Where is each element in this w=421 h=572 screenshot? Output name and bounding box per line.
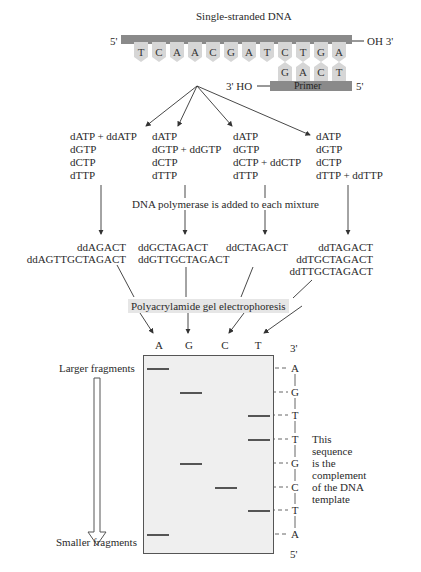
template-5prime-label: 5' [110, 35, 117, 47]
mixture-line: dTTP + ddTTP [316, 169, 383, 182]
sequence-letter: C [290, 481, 300, 493]
gel-band [248, 510, 270, 512]
sequence-letter: A [290, 362, 300, 374]
sequence-letter: T [290, 504, 300, 516]
fragment-line: ddGTTGCTAGACT [138, 253, 229, 265]
polymerase-step-label: DNA polymerase is added to each mixture [130, 198, 321, 210]
template-3prime-label: OH 3' [367, 35, 393, 47]
mixture-line: dGTP [316, 143, 383, 156]
fragment-line: ddAGACT [27, 241, 126, 253]
mixture-line: dGTP + ddGTP [152, 143, 221, 156]
sequence-letter: A [290, 528, 300, 540]
fragments-g: ddGCTAGACT ddGTTGCTAGACT [138, 241, 229, 265]
mixture-line: dCTP [316, 156, 383, 169]
fragments-c: ddCTAGACT [226, 241, 288, 253]
fragment-line: ddAGTTGCTAGACT [27, 253, 126, 265]
mixture-line: dGTP [233, 143, 301, 156]
mixture-line: dCTP + ddCTP [233, 156, 301, 169]
fragments-a: ddAGACT ddAGTTGCTAGACT [27, 241, 126, 265]
sequence-letter: G [290, 457, 300, 469]
template-title: Single-stranded DNA [196, 10, 292, 22]
electrophoresis-step-label: Polyacrylamide gel electrophoresis [128, 299, 289, 313]
complement-annotation: This sequence is the complement of the D… [312, 433, 366, 505]
fragment-line: ddTTGCTAGACT [290, 265, 373, 277]
fragment-line: ddTAGACT [290, 241, 373, 253]
gel-band [180, 463, 202, 465]
gel-band [248, 439, 270, 441]
mixture-line: dATP [233, 130, 301, 143]
lane-label-t: T [252, 339, 264, 351]
gel-band [248, 415, 270, 417]
lane-label-g: G [183, 339, 195, 351]
primer-5prime-label: 5' [356, 80, 363, 92]
mixture-g: dATP dGTP + ddGTP dCTP dTTP [152, 130, 221, 182]
gel-band [147, 368, 169, 370]
mixture-line: dCTP [152, 156, 221, 169]
mixture-c: dATP dGTP dCTP + ddCTP dTTP [233, 130, 301, 182]
annotation-line: is the [312, 457, 366, 469]
fragment-line: ddGCTAGACT [138, 241, 229, 253]
mixture-line: dATP + ddATP [70, 130, 137, 143]
annotation-line: sequence [312, 445, 366, 457]
gel-band [180, 392, 202, 394]
gel-band [215, 487, 237, 489]
sequence-letter: T [290, 409, 300, 421]
mixture-a: dATP + ddATP dGTP dCTP dTTP [70, 130, 137, 182]
gel-band [147, 534, 169, 536]
fragment-line: ddCTAGACT [226, 241, 288, 253]
mixture-line: dTTP [70, 169, 137, 182]
mixture-line: dATP [316, 130, 383, 143]
mixture-line: dCTP [70, 156, 137, 169]
gel [143, 355, 274, 554]
mixture-line: dTTP [233, 169, 301, 182]
sequence-letter: G [290, 386, 300, 398]
gel-5prime-label: 5' [290, 548, 297, 560]
mixture-t: dATP dGTP dCTP dTTP + ddTTP [316, 130, 383, 182]
sequence-letter: T [290, 433, 300, 445]
mixture-line: dGTP [70, 143, 137, 156]
mixture-line: dATP [152, 130, 221, 143]
gel-3prime-label: 3' [290, 342, 297, 354]
primer-label: Primer [294, 80, 321, 91]
primer-3prime-label: 3' HO [226, 80, 252, 92]
annotation-line: complement [312, 469, 366, 481]
lane-label-c: C [219, 339, 231, 351]
annotation-line: of the DNA [312, 481, 366, 493]
larger-fragments-label: Larger fragments [59, 362, 135, 374]
smaller-fragments-label: Smaller fragments [56, 536, 137, 548]
lane-label-a: A [153, 339, 165, 351]
mixture-line: dTTP [152, 169, 221, 182]
annotation-line: This [312, 433, 366, 445]
fragments-t: ddTAGACT ddTGCTAGACT ddTTGCTAGACT [290, 241, 373, 277]
fragment-line: ddTGCTAGACT [290, 253, 373, 265]
annotation-line: template [312, 493, 366, 505]
